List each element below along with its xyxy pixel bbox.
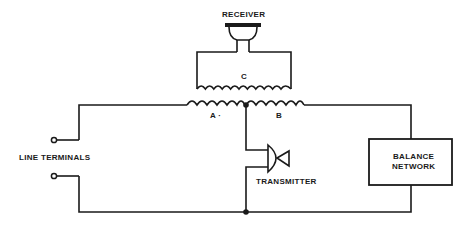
- receiver-icon: [225, 23, 261, 52]
- terminal-upper: [51, 137, 56, 142]
- balance-network-label-line1: BALANCE: [393, 153, 434, 161]
- circuit-diagram: [0, 0, 466, 226]
- terminal-lower: [51, 173, 56, 178]
- coil-a-label: A ·: [210, 112, 221, 120]
- line-terminals-label: LINE TERMINALS: [19, 154, 90, 162]
- coil-b-label: B: [276, 112, 282, 120]
- coil-c-label: C: [241, 73, 247, 81]
- balance-network-label-line2: NETWORK: [392, 163, 435, 171]
- coil-a-inductor: [187, 101, 245, 105]
- bottom-wire: [79, 176, 411, 212]
- coil-b-inductor: [246, 101, 304, 105]
- receiver-label: RECEIVER: [222, 11, 265, 19]
- junction-dot-bottom: [243, 209, 249, 215]
- coil-c-inductor: [197, 52, 291, 89]
- transmitter-label: TRANSMITTER: [256, 178, 317, 186]
- transmitter-icon: [246, 105, 289, 212]
